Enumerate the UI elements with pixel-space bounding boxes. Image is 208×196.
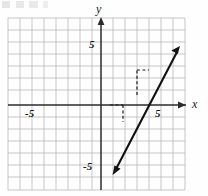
line-arrow-down-icon — [113, 166, 121, 175]
x-tick-label-5: 5 — [155, 108, 161, 119]
y-tick-label-negative-5: -5 — [83, 161, 92, 172]
x-tick-label-negative-5: -5 — [25, 108, 34, 119]
y-axis — [98, 17, 105, 190]
grid-lines — [8, 18, 185, 190]
y-axis-label: y — [96, 3, 101, 15]
coordinate-plane-svg — [0, 0, 208, 196]
y-tick-label-5: 5 — [89, 39, 95, 50]
graph-figure: -5 5 5 -5 y x — [0, 0, 208, 196]
x-axis-label: x — [192, 98, 197, 110]
